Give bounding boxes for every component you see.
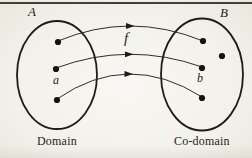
element-b-label: b <box>197 72 203 84</box>
mapping-arrow-top <box>58 26 203 41</box>
arrowhead-top-icon <box>126 23 135 29</box>
set-b-label: B <box>220 6 228 19</box>
domain-point-3 <box>54 97 60 103</box>
codomain-point-4 <box>199 95 205 101</box>
mapping-arrow-middle <box>56 54 202 68</box>
arrowhead-bottom-icon <box>125 71 134 77</box>
domain-point-1 <box>55 39 61 45</box>
element-a-label: a <box>53 74 59 86</box>
function-mapping-diagram: A B f a b Domain Co-domain <box>0 0 252 158</box>
codomain-caption: Co-domain <box>174 135 230 147</box>
domain-caption: Domain <box>37 135 77 147</box>
codomain-point-unmapped <box>219 53 225 59</box>
set-a-label: A <box>28 5 36 18</box>
function-f-label: f <box>124 31 128 46</box>
arrowhead-middle-icon <box>125 51 134 57</box>
mapping-arrow-bottom <box>57 74 202 99</box>
domain-point-a <box>53 66 59 72</box>
codomain-point-1 <box>200 38 206 44</box>
